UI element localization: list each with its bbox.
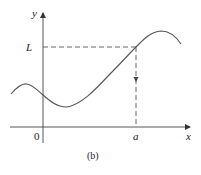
limit-diagram-figure: y L 0 a x (b) xyxy=(0,0,201,175)
origin-label: 0 xyxy=(34,131,40,142)
x-axis-label: x xyxy=(186,131,191,142)
graph-canvas xyxy=(0,0,201,175)
limit-label-L: L xyxy=(26,42,32,53)
figure-caption: (b) xyxy=(87,151,99,161)
point-a-label: a xyxy=(133,131,139,142)
y-axis-label: y xyxy=(32,8,37,19)
function-curve xyxy=(11,31,181,107)
down-arrow-icon xyxy=(134,77,139,82)
